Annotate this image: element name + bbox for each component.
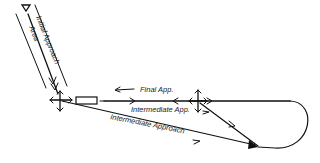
intermediate-approach-label: Intermediate Approach — [110, 112, 186, 135]
approach-procedure-diagram: Initial Approach Area Final App. Interme… — [0, 0, 320, 163]
procedure-turn-loop — [258, 101, 308, 148]
runway-rect — [76, 97, 97, 104]
arrow-icon — [193, 140, 200, 144]
intermediate-app-label: Intermediate App. — [131, 105, 190, 114]
start-triangle-icon — [22, 5, 30, 11]
arrow-icon — [229, 121, 235, 127]
final-app-arrow — [116, 89, 134, 90]
diagram-canvas: Initial Approach Area Final App. Interme… — [0, 0, 320, 163]
final-app-label: Final App. — [140, 85, 174, 94]
arrow-icon — [203, 111, 209, 114]
